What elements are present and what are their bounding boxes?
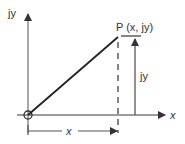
- x-dimension-label: x: [65, 125, 72, 137]
- vector-op: [28, 37, 118, 115]
- x-axis-label: x: [169, 109, 176, 121]
- complex-plane-diagram: jy x P (x, jy) jy x: [0, 0, 185, 144]
- jy-dimension-label: jy: [139, 70, 148, 82]
- y-axis-label: jy: [7, 7, 16, 19]
- point-p-label: P (x, jy): [116, 21, 153, 33]
